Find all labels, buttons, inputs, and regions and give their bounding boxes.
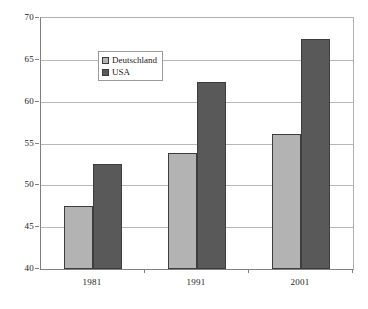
bar-usa-1981 [93, 164, 122, 269]
y-axis-tick-label: 70 [4, 13, 34, 22]
plot-area [40, 17, 354, 270]
bar-chart: 40455055606570 198119912001 Deutschland … [0, 0, 368, 309]
legend-item-deutschland: Deutschland [102, 54, 157, 66]
y-axis-tick-mark [35, 101, 39, 102]
x-axis-tick-mark [248, 269, 249, 273]
bar-usa-2001 [301, 39, 330, 269]
y-axis-tick-label: 65 [4, 55, 34, 64]
y-axis-tick-label: 40 [4, 264, 34, 273]
bar-usa-1991 [197, 82, 226, 269]
x-axis-tick-label: 1991 [166, 277, 226, 287]
legend-label-usa: USA [112, 67, 130, 77]
legend-label-deutschland: Deutschland [112, 55, 157, 65]
x-axis-tick-label: 2001 [270, 277, 330, 287]
bar-deutschland-1991 [168, 153, 197, 269]
y-axis-tick-label: 55 [4, 139, 34, 148]
y-axis-tick-mark [35, 184, 39, 185]
y-axis-tick-label: 50 [4, 180, 34, 189]
legend: Deutschland USA [98, 51, 163, 81]
y-axis-tick-mark [35, 226, 39, 227]
y-axis-tick-mark [35, 143, 39, 144]
legend-swatch-icon-usa [102, 69, 109, 76]
y-axis: 40455055606570 [0, 0, 34, 309]
y-axis-tick-label: 60 [4, 97, 34, 106]
legend-item-usa: USA [102, 66, 157, 78]
y-axis-tick-mark [35, 17, 39, 18]
x-axis-tick-mark [352, 269, 353, 273]
y-axis-tick-mark [35, 59, 39, 60]
x-axis-tick-label: 1981 [62, 277, 122, 287]
y-axis-tick-mark [35, 268, 39, 269]
bar-deutschland-2001 [272, 134, 301, 269]
y-axis-tick-label: 45 [4, 222, 34, 231]
x-axis-tick-mark [144, 269, 145, 273]
bar-deutschland-1981 [64, 206, 93, 269]
legend-swatch-icon-deutschland [102, 57, 109, 64]
